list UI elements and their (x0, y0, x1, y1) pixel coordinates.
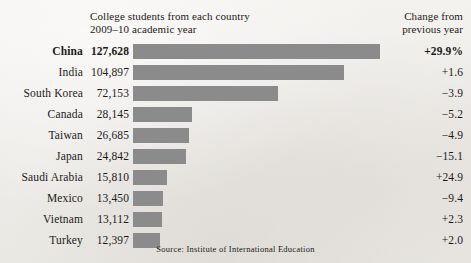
row-student-count: 26,685 (83, 125, 129, 146)
row-bar (133, 44, 380, 59)
table-row: South Korea72,153−3.9 (0, 83, 471, 104)
row-bar (133, 86, 278, 101)
chart-title: College students from each country 2009–… (90, 10, 250, 36)
row-bar (133, 107, 192, 122)
row-student-count: 24,842 (83, 146, 129, 167)
row-change-value: −5.2 (383, 104, 463, 125)
row-country-label: Saudi Arabia (0, 167, 83, 188)
row-bar (133, 191, 163, 206)
change-column-header: Change from previous year (353, 10, 463, 36)
row-change-value: +29.9% (383, 41, 463, 62)
row-country-label: China (0, 41, 83, 62)
table-row: China127,628+29.9% (0, 41, 471, 62)
source-note: Source: Institute of International Educa… (0, 244, 471, 254)
row-change-value: −4.9 (383, 125, 463, 146)
table-row: Japan24,842−15.1 (0, 146, 471, 167)
row-country-label: Taiwan (0, 125, 83, 146)
row-student-count: 127,628 (83, 41, 129, 62)
row-bar (133, 65, 344, 80)
bar-chart-college-students: College students from each country 2009–… (0, 0, 471, 263)
row-country-label: Vietnam (0, 209, 83, 230)
row-bar (133, 170, 167, 185)
row-student-count: 28,145 (83, 104, 129, 125)
table-row: Taiwan26,685−4.9 (0, 125, 471, 146)
table-row: Mexico13,450−9.4 (0, 188, 471, 209)
row-bar (133, 128, 189, 143)
row-country-label: Canada (0, 104, 83, 125)
row-country-label: Japan (0, 146, 83, 167)
row-bar (133, 212, 162, 227)
row-student-count: 15,810 (83, 167, 129, 188)
table-row: Vietnam13,112+2.3 (0, 209, 471, 230)
chart-rows: China127,628+29.9%India104,897+1.6South … (0, 41, 471, 251)
table-row: India104,897+1.6 (0, 62, 471, 83)
row-student-count: 72,153 (83, 83, 129, 104)
row-change-value: −9.4 (383, 188, 463, 209)
table-row: Canada28,145−5.2 (0, 104, 471, 125)
row-country-label: Mexico (0, 188, 83, 209)
row-student-count: 104,897 (83, 62, 129, 83)
row-change-value: +1.6 (383, 62, 463, 83)
row-bar (133, 149, 186, 164)
table-row: Saudi Arabia15,810+24.9 (0, 167, 471, 188)
row-student-count: 13,112 (83, 209, 129, 230)
row-change-value: +24.9 (383, 167, 463, 188)
row-change-value: −15.1 (383, 146, 463, 167)
row-country-label: South Korea (0, 83, 83, 104)
row-country-label: India (0, 62, 83, 83)
row-student-count: 13,450 (83, 188, 129, 209)
row-change-value: +2.3 (383, 209, 463, 230)
row-change-value: −3.9 (383, 83, 463, 104)
